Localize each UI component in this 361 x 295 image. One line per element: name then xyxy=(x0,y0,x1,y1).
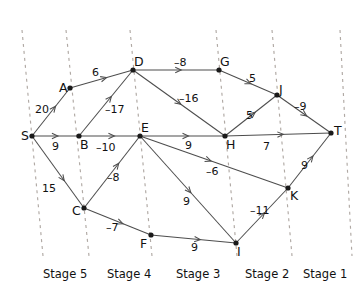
edge-G-J xyxy=(219,70,277,95)
edge-weight-E-I: 9 xyxy=(183,196,190,207)
node-F[interactable] xyxy=(148,232,153,237)
edge-weight-B-E: –10 xyxy=(96,142,116,153)
node-label-I: I xyxy=(237,246,241,259)
stage-divider-1 xyxy=(22,30,43,256)
edge-weight-H-T: 7 xyxy=(263,141,270,152)
edge-E-I xyxy=(140,136,236,243)
node-C[interactable] xyxy=(81,205,86,210)
node-label-B: B xyxy=(80,139,89,152)
stage-label-stage-1: Stage 1 xyxy=(303,269,347,281)
edge-weight-S-C: 15 xyxy=(42,183,56,194)
node-label-S: S xyxy=(21,130,29,143)
node-T[interactable] xyxy=(328,130,333,135)
node-label-G: G xyxy=(220,56,230,69)
edge-A-D xyxy=(70,70,133,88)
stage-label-stage-5: Stage 5 xyxy=(43,269,87,281)
node-label-F: F xyxy=(140,238,147,251)
node-label-D: D xyxy=(134,56,144,69)
node-label-E: E xyxy=(141,122,149,135)
node-label-J: J xyxy=(279,84,283,97)
node-A[interactable] xyxy=(67,85,72,90)
edge-K-T xyxy=(288,133,331,188)
edge-weight-G-J: 5 xyxy=(249,73,256,84)
edge-weight-B-D: –17 xyxy=(105,104,125,115)
node-label-H: H xyxy=(226,139,235,152)
node-label-T: T xyxy=(334,125,342,138)
stage-label-stage-4: Stage 4 xyxy=(107,269,151,281)
edge-weight-C-F: –7 xyxy=(106,222,119,233)
stage-label-stage-2: Stage 2 xyxy=(245,269,289,281)
node-label-K: K xyxy=(290,190,298,203)
edge-weight-D-H: –16 xyxy=(179,93,199,104)
edge-weight-F-I: 9 xyxy=(191,242,198,253)
edge-weight-S-B: 9 xyxy=(52,141,59,152)
edge-weight-K-T: 9 xyxy=(301,160,308,171)
node-S[interactable] xyxy=(29,133,34,138)
node-label-C: C xyxy=(72,205,81,218)
edge-weight-C-E: –8 xyxy=(107,172,120,183)
edge-weight-E-H: 9 xyxy=(185,140,192,151)
edge-weight-I-K: –11 xyxy=(250,205,270,216)
network-diagram-canvas: Stage 5Stage 4Stage 3Stage 2Stage 120915… xyxy=(0,0,361,295)
edge-weight-D-G: –8 xyxy=(174,57,187,68)
edge-weight-J-T: –9 xyxy=(294,101,307,112)
stage-divider-5 xyxy=(272,30,292,256)
edge-weight-S-A: 20 xyxy=(35,104,49,115)
node-label-A: A xyxy=(59,82,68,95)
edge-weight-H-J: 5 xyxy=(246,110,253,121)
stage-label-stage-3: Stage 3 xyxy=(176,269,220,281)
edge-weight-E-K: –6 xyxy=(206,166,219,177)
edge-H-T xyxy=(225,133,331,136)
stage-divider-6 xyxy=(340,30,352,256)
edge-weight-A-D: 6 xyxy=(92,67,99,78)
